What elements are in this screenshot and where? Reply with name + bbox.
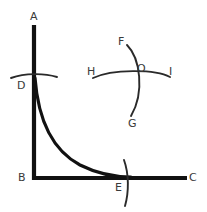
diagram-canvas bbox=[0, 0, 207, 212]
point-label-o: O bbox=[137, 63, 146, 74]
cross-arc-hi bbox=[93, 71, 170, 78]
point-label-e: E bbox=[115, 182, 122, 193]
tick-arc-e bbox=[124, 160, 128, 206]
decay-curve-de bbox=[35, 78, 131, 177]
point-label-g: G bbox=[128, 118, 137, 129]
geometry-diagram: A B C D E F G H I O bbox=[0, 0, 207, 212]
point-label-b: B bbox=[18, 172, 26, 183]
cross-arc-fg bbox=[127, 45, 139, 116]
point-label-c: C bbox=[189, 172, 197, 183]
point-label-d: D bbox=[17, 80, 25, 91]
point-label-h: H bbox=[87, 66, 95, 77]
point-label-i: I bbox=[169, 66, 172, 77]
point-label-a: A bbox=[30, 11, 38, 22]
point-label-f: F bbox=[118, 36, 124, 47]
